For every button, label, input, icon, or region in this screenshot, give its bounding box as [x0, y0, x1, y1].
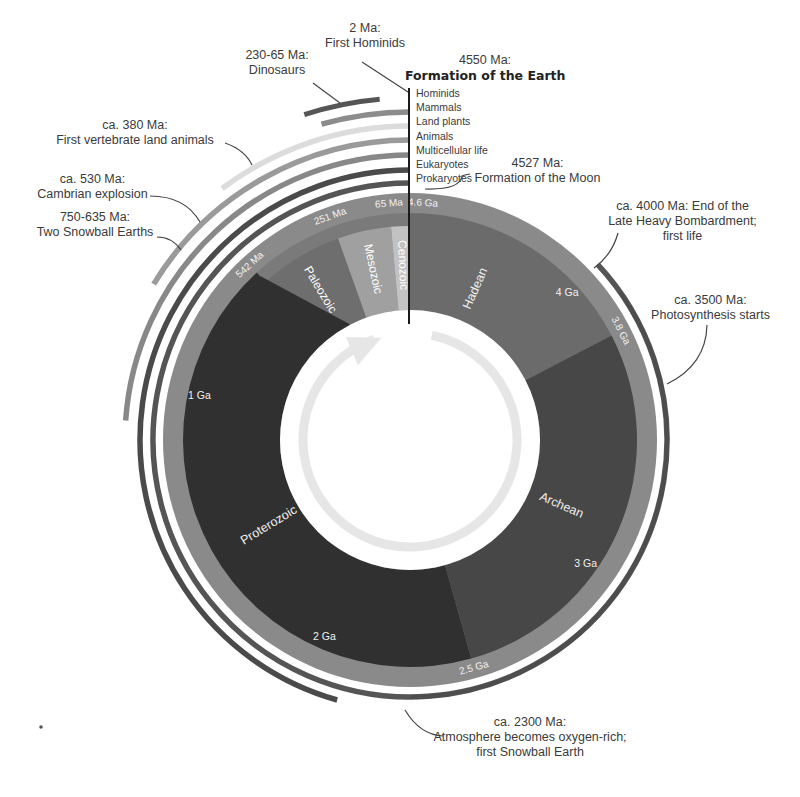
- legend-item-hominids: Hominids: [416, 86, 488, 100]
- inner-circle: [280, 310, 540, 570]
- leader-land-animals: [225, 143, 252, 165]
- legend-item-mammals: Mammals: [416, 100, 488, 114]
- annotation-dinosaurs: 230-65 Ma: Dinosaurs: [232, 48, 322, 78]
- tick-label: 4 Ga: [556, 286, 579, 298]
- tick-label: 2 Ga: [313, 630, 336, 642]
- annotation-snowball: 750-635 Ma: Two Snowball Earths: [30, 210, 160, 240]
- tick-label: 4.6 Ga: [408, 196, 439, 209]
- leader-dinosaurs: [313, 83, 340, 103]
- legend-item-animals: Animals: [416, 129, 488, 143]
- tick-label: 1 Ga: [188, 389, 211, 401]
- center-circle: [280, 310, 540, 570]
- stray-mark: [39, 725, 43, 729]
- annotation-cambrian: ca. 530 Ma: Cambrian explosion: [30, 172, 155, 202]
- leader-photosynthesis: [667, 325, 707, 384]
- annotation-bombardment: ca. 4000 Ma: End of the Late Heavy Bomba…: [600, 199, 765, 244]
- leader-hominids: [362, 62, 408, 92]
- annotation-photosynthesis: ca. 3500 Ma: Photosynthesis starts: [643, 293, 778, 323]
- annotation-earth-formation: 4550 Ma: Formation of the Earth: [405, 53, 565, 83]
- legend-item-multicellular: Multicellular life: [416, 143, 488, 157]
- annotation-moon: 4527 Ma: Formation of the Moon: [470, 156, 605, 186]
- annotation-oxygen: ca. 2300 Ma: Atmosphere becomes oxygen-r…: [430, 715, 630, 760]
- life-arc-mammals: [322, 112, 410, 124]
- annotation-hominids: 2 Ma: First Hominids: [305, 21, 425, 51]
- annotation-land-animals: ca. 380 Ma: First vertebrate land animal…: [45, 118, 225, 148]
- legend-item-land-plants: Land plants: [416, 114, 488, 128]
- tick-label: 3 Ga: [574, 557, 597, 569]
